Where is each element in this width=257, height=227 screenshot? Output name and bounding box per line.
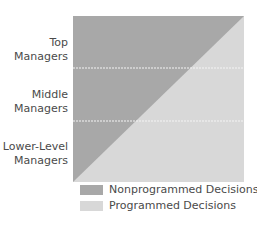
level-label-lower-line2: Managers <box>3 154 68 168</box>
legend-swatch-nonprogrammed <box>80 185 103 195</box>
level-label-lower: Lower-Level Managers <box>3 140 68 168</box>
legend-swatch-programmed <box>80 201 103 211</box>
level-label-top: Top Managers <box>14 36 68 64</box>
legend-item-programmed: Programmed Decisions <box>80 199 236 212</box>
level-label-top-line1: Top <box>14 36 68 50</box>
legend-item-nonprogrammed: Nonprogrammed Decisions <box>80 183 257 196</box>
level-label-middle: Middle Managers <box>14 88 68 116</box>
level-label-middle-line1: Middle <box>14 88 68 102</box>
decision-square <box>73 16 244 182</box>
level-label-middle-line2: Managers <box>14 102 68 116</box>
level-label-lower-line1: Lower-Level <box>3 140 68 154</box>
legend-label-programmed: Programmed Decisions <box>109 199 236 212</box>
level-label-top-line2: Managers <box>14 50 68 64</box>
legend-label-nonprogrammed: Nonprogrammed Decisions <box>109 183 257 196</box>
